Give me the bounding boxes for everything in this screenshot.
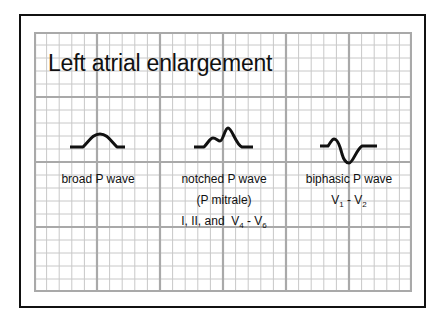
p-mitrale-label: (P mitrale) bbox=[196, 193, 251, 207]
waveforms bbox=[0, 0, 445, 319]
broad-p-wave-label: broad P wave bbox=[61, 172, 134, 186]
lead-subscript: 2 bbox=[362, 200, 366, 209]
notched-p-wave-label: notched P wave bbox=[181, 172, 266, 186]
broad-p-wave-trace bbox=[70, 134, 125, 147]
notched-p-wave-trace bbox=[194, 128, 253, 147]
lead-subscript: 6 bbox=[262, 221, 266, 230]
leads-prefix: V bbox=[331, 193, 339, 207]
leads-mid: - V bbox=[244, 214, 263, 228]
leads-mid: - V bbox=[344, 193, 363, 207]
biphasic-leads-label: V1 - V2 bbox=[331, 193, 367, 209]
notched-leads-label: I, II, and V4 - V6 bbox=[181, 214, 267, 230]
biphasic-p-wave-label: biphasic P wave bbox=[306, 172, 393, 186]
leads-prefix: I, II, and V bbox=[181, 214, 239, 228]
biphasic-p-wave-trace bbox=[320, 139, 377, 163]
